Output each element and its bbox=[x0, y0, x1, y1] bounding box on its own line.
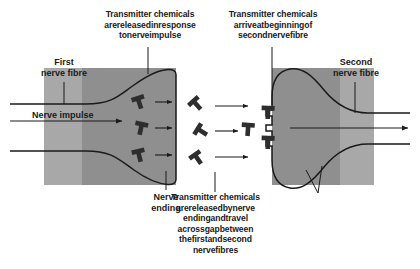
label-first-nerve-fibre: First nerve fibre bbox=[24, 57, 104, 79]
first-fibre-outer-band bbox=[44, 68, 82, 185]
callout-release-in-response: Transmitter chemicals arereleasedinrespo… bbox=[96, 9, 204, 41]
transmitter-molecule-icon bbox=[188, 149, 206, 167]
callout-arrive-second-fibre: Transmitter chemicals arriveatbeginningo… bbox=[219, 9, 327, 41]
diffusion-arrows bbox=[215, 106, 248, 157]
synapse-diagram-page: Transmitter chemicals arereleasedinrespo… bbox=[0, 0, 420, 269]
second-fibre-inner-band bbox=[272, 68, 340, 185]
transmitter-molecule-icon bbox=[192, 122, 210, 140]
label-nerve-impulse: Nerve impulse bbox=[32, 110, 120, 121]
first-fibre-inner-band bbox=[82, 68, 176, 185]
label-second-nerve-fibre: Second nerve fibre bbox=[316, 57, 396, 79]
transmitter-molecule-icon bbox=[187, 95, 205, 114]
second-fibre-outer-band bbox=[340, 68, 374, 185]
callout-travel-across-gap: Transmitter chemicals arereleasedbynerve… bbox=[159, 192, 272, 256]
callout-impulse-triggered: When enough chemicals reach the second n… bbox=[285, 194, 413, 236]
transmitter-molecule-icon bbox=[241, 122, 255, 136]
